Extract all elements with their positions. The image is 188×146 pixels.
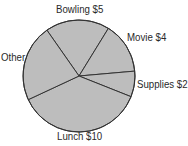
label-bowling: Bowling $5	[56, 4, 103, 15]
label-other: Other	[1, 52, 25, 63]
pie-chart	[0, 0, 188, 146]
label-lunch: Lunch $10	[57, 131, 102, 142]
label-movie: Movie $4	[127, 32, 166, 43]
label-supplies: Supplies $2	[137, 79, 188, 90]
pie-slices	[23, 20, 135, 132]
